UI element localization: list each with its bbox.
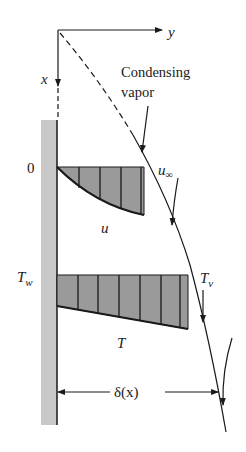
t-vapor-label: Tv (200, 270, 213, 289)
t-profile-label: T (117, 335, 127, 351)
u-profile-label: u (101, 220, 109, 236)
y-axis-label: y (166, 24, 175, 40)
condensing-vapor-label-2: vapor (121, 84, 154, 100)
condensation-diagram: y x Condensing vapor 0 u∞ u Tw Tv T δ(x) (0, 0, 246, 452)
u-inf-arrow (172, 178, 178, 225)
condensing-vapor-label-1: Condensing (121, 64, 190, 80)
temperature-profile (57, 275, 188, 329)
x-axis-label: x (40, 71, 48, 87)
wall (41, 120, 57, 425)
condensing-vapor-arrow (142, 106, 148, 152)
origin-zero-label: 0 (27, 160, 35, 176)
u-inf-label: u∞ (158, 162, 173, 180)
delta-label: δ(x) (114, 384, 139, 401)
t-wall-label: Tw (17, 269, 33, 288)
film-growth-arrow (223, 338, 232, 405)
